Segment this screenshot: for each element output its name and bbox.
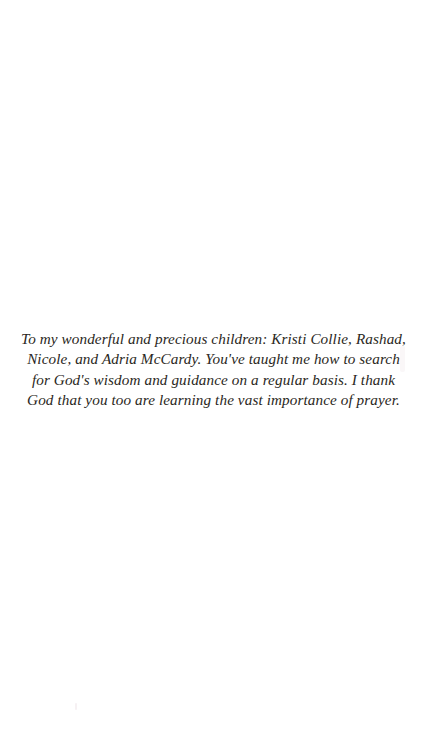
- dedication-line: God that you too are learning the vast i…: [18, 390, 409, 410]
- dedication-line: Nicole, and Adria McCardy. You've taught…: [18, 349, 409, 369]
- scan-artifact-speck: [75, 703, 77, 710]
- dedication-line: for God's wisdom and guidance on a regul…: [18, 370, 409, 390]
- book-page: To my wonderful and precious children: K…: [0, 0, 427, 754]
- dedication-text-block: To my wonderful and precious children: K…: [0, 329, 427, 411]
- dedication-line: To my wonderful and precious children: K…: [18, 329, 409, 349]
